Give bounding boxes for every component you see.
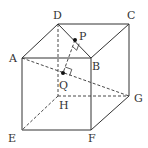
- cube-figure: D C A B P Q H G E F: [0, 0, 148, 148]
- label-H: H: [59, 99, 69, 112]
- edge-DA: [22, 24, 58, 58]
- label-G: G: [134, 92, 143, 105]
- label-E: E: [8, 132, 16, 145]
- label-C: C: [127, 9, 135, 22]
- edge-FG: [91, 96, 129, 130]
- edge-HE: [22, 96, 58, 130]
- point-P-dot: [73, 38, 77, 42]
- label-P: P: [79, 30, 87, 43]
- label-Q: Q: [59, 79, 68, 92]
- diagonal-AG: [22, 58, 129, 96]
- label-F: F: [88, 132, 96, 145]
- label-A: A: [8, 52, 18, 65]
- label-B: B: [92, 60, 100, 73]
- cube-diagram: D C A B P Q H G E F: [0, 0, 148, 148]
- point-Q-dot: [61, 71, 65, 75]
- right-angle-mark-Q: [65, 67, 72, 76]
- edge-BC: [91, 24, 129, 58]
- label-D: D: [53, 9, 62, 22]
